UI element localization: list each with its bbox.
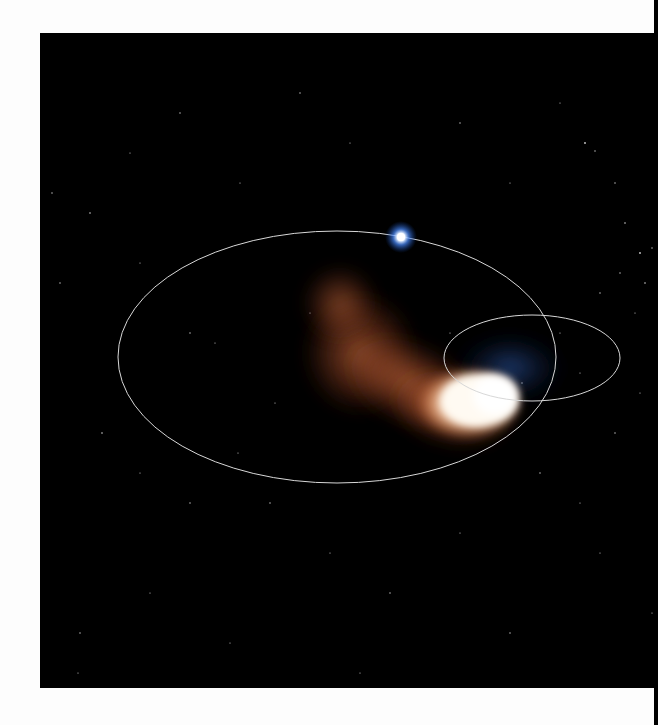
comet-head [415,365,525,441]
space-scene [40,33,658,688]
space-illustration [40,33,658,688]
blue-star [385,221,417,253]
